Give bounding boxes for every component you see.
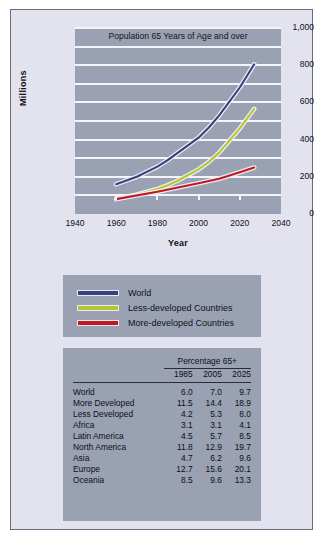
- legend-item-more-developed-countries[interactable]: More-developed Countries: [77, 316, 234, 330]
- x-tick-2000: 2000: [179, 218, 219, 228]
- column-header-blank: [73, 369, 164, 381]
- x-tickmark-1960: [115, 196, 117, 200]
- column-header-2025: 2025: [222, 369, 251, 381]
- cell-africa-1985: 3.1: [164, 419, 193, 430]
- legend-label-world: World: [128, 288, 151, 298]
- table-body: World6.07.09.7More Developed11.514.418.9…: [73, 386, 251, 486]
- legend-swatch-more-developed-countries: [77, 320, 119, 326]
- x-tickmark-2020: [239, 196, 241, 200]
- legend-swatch-less-developed-countries: [77, 305, 119, 311]
- plot-area: Population 65 Years of Age and over: [75, 28, 281, 214]
- cell-less-developed-2005: 5.3: [193, 408, 222, 419]
- table-row: Oceania8.59.613.3: [73, 474, 251, 485]
- cell-world-2005: 7.0: [193, 386, 222, 397]
- table-column-header-row: 198520052025: [73, 369, 251, 381]
- x-tick-2040: 2040: [261, 218, 301, 228]
- x-tickmark-1980: [156, 196, 158, 200]
- row-label-latin-america: Latin America: [73, 430, 164, 441]
- cell-less-developed-1985: 4.2: [164, 408, 193, 419]
- table-head: Percentage 65+ 198520052025: [73, 356, 251, 386]
- table-group-header-row: Percentage 65+: [73, 356, 251, 367]
- column-header-2005: 2005: [193, 369, 222, 381]
- cell-world-2025: 9.7: [222, 386, 251, 397]
- table-row: North America11.812.919.7: [73, 441, 251, 452]
- cell-less-developed-2025: 8.0: [222, 408, 251, 419]
- cell-latin-america-2025: 8.5: [222, 430, 251, 441]
- row-label-asia: Asia: [73, 452, 164, 463]
- legend-label-more-developed-countries: More-developed Countries: [128, 318, 234, 328]
- y-axis-title: Millions: [18, 70, 28, 106]
- cell-oceania-2005: 9.6: [193, 474, 222, 485]
- cell-north-america-2005: 12.9: [193, 441, 222, 452]
- percentage-table: Percentage 65+ 198520052025: [73, 356, 251, 485]
- legend-swatch-world: [77, 290, 119, 296]
- x-tick-1940: 1940: [55, 218, 95, 228]
- row-label-oceania: Oceania: [73, 474, 164, 485]
- column-header-1985: 1985: [164, 369, 193, 381]
- series-lines: [75, 28, 281, 214]
- table-row: Less Developed4.25.38.0: [73, 408, 251, 419]
- series-halo-world: [116, 64, 254, 184]
- table-row: Africa3.13.14.1: [73, 419, 251, 430]
- legend-item-world[interactable]: World: [77, 286, 151, 300]
- cell-africa-2005: 3.1: [193, 419, 222, 430]
- cell-asia-2025: 9.6: [222, 452, 251, 463]
- cell-oceania-2025: 13.3: [222, 474, 251, 485]
- series-line-world: [116, 64, 254, 184]
- row-label-world: World: [73, 386, 164, 397]
- x-tickmark-2000: [198, 196, 200, 200]
- legend-label-less-developed-countries: Less-developed Countries: [128, 303, 233, 313]
- chart-panel: Millions 02004006008001,000 Population 6…: [11, 10, 314, 265]
- table-row: Asia4.76.29.6: [73, 452, 251, 463]
- cell-asia-2005: 6.2: [193, 452, 222, 463]
- table-row: Latin America4.55.78.5: [73, 430, 251, 441]
- table-panel: Percentage 65+ 198520052025: [63, 348, 261, 521]
- group-header-blank: [73, 356, 164, 367]
- x-tick-2020: 2020: [220, 218, 260, 228]
- x-axis-title: Year: [75, 238, 281, 248]
- cell-north-america-1985: 11.8: [164, 441, 193, 452]
- cell-north-america-2025: 19.7: [222, 441, 251, 452]
- row-label-less-developed: Less Developed: [73, 408, 164, 419]
- cell-latin-america-2005: 5.7: [193, 430, 222, 441]
- cell-oceania-1985: 8.5: [164, 474, 193, 485]
- legend-panel: WorldLess-developed CountriesMore-develo…: [63, 275, 261, 337]
- cell-europe-2025: 20.1: [222, 463, 251, 474]
- x-tick-1980: 1980: [137, 218, 177, 228]
- row-label-europe: Europe: [73, 463, 164, 474]
- cell-more-developed-2025: 18.9: [222, 397, 251, 408]
- cell-world-1985: 6.0: [164, 386, 193, 397]
- row-label-north-america: North America: [73, 441, 164, 452]
- legend-item-less-developed-countries[interactable]: Less-developed Countries: [77, 301, 233, 315]
- cell-africa-2025: 4.1: [222, 419, 251, 430]
- table-row: More Developed11.514.418.9: [73, 397, 251, 408]
- row-label-africa: Africa: [73, 419, 164, 430]
- cell-europe-1985: 12.7: [164, 463, 193, 474]
- x-tick-1960: 1960: [96, 218, 136, 228]
- cell-more-developed-1985: 11.5: [164, 397, 193, 408]
- table-row: World6.07.09.7: [73, 386, 251, 397]
- cell-more-developed-2005: 14.4: [193, 397, 222, 408]
- group-header-percentage: Percentage 65+: [164, 356, 251, 367]
- row-label-more-developed: More Developed: [73, 397, 164, 408]
- figure-frame: Millions 02004006008001,000 Population 6…: [10, 9, 313, 530]
- cell-asia-1985: 4.7: [164, 452, 193, 463]
- cell-latin-america-1985: 4.5: [164, 430, 193, 441]
- table-row: Europe12.715.620.1: [73, 463, 251, 474]
- cell-europe-2005: 15.6: [193, 463, 222, 474]
